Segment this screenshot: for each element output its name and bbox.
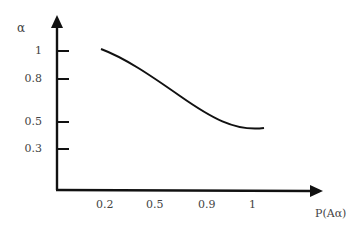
x-axis-arrow-icon bbox=[310, 185, 323, 197]
y-axis-label: α bbox=[17, 22, 25, 34]
x-axis bbox=[56, 190, 312, 191]
y-tick-label: 0.5 bbox=[12, 116, 42, 127]
data-curve bbox=[101, 49, 264, 129]
x-tick-label: 1 bbox=[249, 199, 256, 210]
y-tick-label: 1 bbox=[12, 45, 42, 56]
y-tick-label: 0.8 bbox=[12, 73, 42, 84]
x-tick-label: 0.9 bbox=[198, 199, 216, 210]
x-axis-label: P(Aα) bbox=[315, 208, 346, 219]
chart-canvas bbox=[0, 0, 364, 230]
x-tick-label: 0.2 bbox=[96, 199, 114, 210]
y-tick-label: 0.3 bbox=[12, 143, 42, 154]
y-axis-arrow-icon bbox=[51, 15, 63, 28]
x-tick-label: 0.5 bbox=[146, 199, 164, 210]
